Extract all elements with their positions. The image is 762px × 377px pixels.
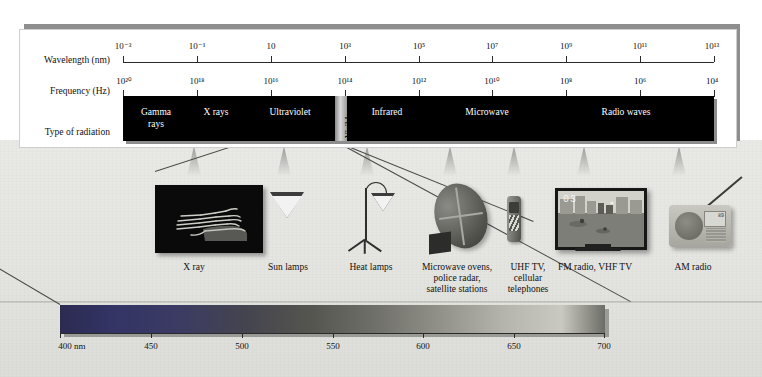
sun-lamp-light	[272, 196, 302, 218]
tv-channel-display: 03	[563, 194, 577, 205]
tv-base	[575, 248, 621, 251]
wavelength-tick-6	[566, 56, 567, 62]
wavelength-axis-line	[123, 62, 714, 63]
caption-uhf: UHF TV, cellular telephones	[508, 262, 549, 295]
frequency-row-label: Frequency (Hz)	[24, 86, 110, 96]
phone-body	[507, 196, 521, 242]
caption-am: AM radio	[674, 262, 711, 273]
dish-base	[429, 231, 451, 254]
heat-lamp-pole	[365, 188, 367, 240]
wavelength-label-1: 10⁻¹	[189, 41, 206, 51]
tv-screen: 03	[558, 191, 644, 247]
caption-x-ray: X ray	[183, 262, 204, 273]
heat-lamp-leg-2	[348, 239, 365, 252]
spectrum-label-600: 600	[416, 341, 430, 351]
wavelength-label-3: 10³	[339, 41, 351, 51]
spectrum-tick-450	[151, 333, 152, 338]
spectrum-label-500: 500	[235, 341, 249, 351]
device-am-radio: 89	[665, 195, 745, 251]
frequency-label-2: 10¹⁶	[264, 76, 279, 86]
band-label-microwave: Microwave	[442, 107, 532, 118]
band-label-ultraviolet: Ultraviolet	[248, 107, 332, 118]
caption-sun-lamps: Sun lamps	[268, 262, 308, 273]
wavelength-label-4: 10⁵	[413, 41, 425, 51]
device-cellular-telephone	[505, 196, 525, 246]
wavelength-label-6: 10⁹	[560, 41, 572, 51]
wavelength-tick-2	[271, 56, 272, 62]
wavelength-tick-1	[197, 56, 198, 62]
electromagnetic-spectrum-figure: 03 89 X ray Sun lamps Heat lamps Microwa…	[0, 0, 762, 377]
device-heat-lamp	[345, 182, 399, 254]
band-label-infrared: Infrared	[352, 107, 422, 118]
spectrum-label-550: 550	[326, 341, 340, 351]
wavelength-label-0: 10⁻³	[115, 41, 132, 51]
caption-fm: FM radio, VHF TV	[558, 262, 632, 273]
heat-lamp-leg-1	[365, 239, 382, 252]
radio-control-grill	[706, 228, 726, 242]
heat-lamp-light	[373, 196, 393, 211]
spectrum-tick-550	[333, 333, 334, 338]
device-television: 03	[555, 188, 647, 254]
frequency-label-4: 10¹²	[412, 76, 426, 86]
band-label-gamma-line1: Gamma	[125, 107, 187, 118]
wavelength-label-5: 10⁷	[486, 41, 498, 51]
tv-bezel: 03	[555, 188, 647, 250]
spectrum-tick-500	[242, 333, 243, 338]
radiation-bar-right	[347, 96, 714, 141]
spectrum-tick-600	[423, 333, 424, 338]
radio-body: 89	[669, 205, 731, 247]
spectrum-tick-700	[604, 333, 605, 338]
wavelength-tick-4	[419, 56, 420, 62]
visible-spectrum-bar	[60, 305, 605, 333]
radio-speaker	[675, 212, 703, 240]
device-sun-lamp	[265, 190, 311, 232]
frequency-label-5: 10¹⁰	[484, 76, 500, 86]
heat-lamp-leg-3	[364, 240, 366, 254]
spectrum-label-400: 400 nm	[58, 341, 85, 351]
wavelength-row-label: Wavelength (nm)	[24, 55, 110, 65]
wavelength-tick-7	[640, 56, 641, 62]
spectrum-label-700: 700	[597, 341, 611, 351]
phone-keypad	[509, 215, 519, 231]
frequency-label-0: 10²⁰	[116, 76, 132, 86]
frequency-label-6: 10⁸	[560, 76, 572, 86]
wavelength-tick-3	[345, 56, 346, 62]
scene-background	[0, 140, 762, 377]
spectrum-tick-400	[60, 333, 61, 338]
wavelength-label-8: 10¹³	[705, 41, 719, 51]
device-x-ray-photograph	[155, 185, 263, 253]
spectrum-label-450: 450	[144, 341, 158, 351]
device-satellite-dish	[425, 183, 495, 261]
type-of-radiation-row-label: Type of radiation	[24, 127, 110, 137]
caption-heat-lamps: Heat lamps	[349, 262, 392, 273]
band-label-radio-waves: Radio waves	[578, 107, 674, 118]
frequency-label-3: 10¹⁴	[338, 76, 353, 86]
visible-band: Visible	[335, 96, 347, 141]
band-label-gamma-line2: rays	[125, 119, 187, 130]
frequency-label-1: 10¹⁸	[190, 76, 205, 86]
frequency-label-7: 10⁶	[634, 76, 646, 86]
band-label-x-rays: X rays	[188, 107, 244, 118]
wavelength-tick-0	[123, 56, 124, 62]
spectrum-label-650: 650	[507, 341, 521, 351]
floor-edge-line	[0, 301, 762, 303]
wavelength-label-2: 10	[267, 41, 276, 51]
wavelength-label-7: 10¹¹	[633, 41, 647, 51]
hand-bones-icon	[169, 195, 249, 243]
wavelength-tick-5	[492, 56, 493, 62]
phone-screen	[509, 202, 519, 213]
caption-microwave: Microwave ovens, police radar, satellite…	[422, 262, 492, 295]
frequency-tick-8	[714, 90, 715, 97]
spectrum-tick-650	[514, 333, 515, 338]
radio-display-text: 89	[718, 213, 724, 219]
wavelength-tick-8	[714, 56, 715, 62]
frequency-label-8: 10⁴	[706, 76, 718, 86]
